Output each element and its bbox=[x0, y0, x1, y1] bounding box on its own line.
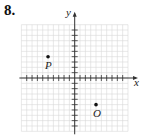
y-axis-arrow-icon bbox=[73, 12, 77, 17]
coordinate-plane: x y PO bbox=[0, 0, 143, 138]
point-label: P bbox=[44, 59, 52, 71]
plotted-points: PO bbox=[44, 55, 101, 119]
y-axis-label: y bbox=[65, 6, 71, 18]
x-axis-label: x bbox=[133, 76, 139, 88]
point-label: O bbox=[93, 107, 101, 119]
